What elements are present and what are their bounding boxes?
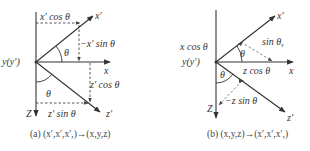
theta-arc-bottom — [36, 74, 52, 82]
caption-a: (a) (x′,x′,x′,)→(x,y,z) — [30, 129, 111, 140]
x-label: x — [103, 65, 109, 76]
origin-label: y(y′) — [181, 56, 200, 68]
z-prime-label: z′ — [286, 112, 294, 123]
x-label: x — [288, 65, 294, 76]
z-prime-sin-label: z′ sin θ — [47, 108, 76, 119]
neg-x-prime-sin-label: −x′ sin θ — [80, 38, 115, 49]
theta-bottom-label: θ — [46, 88, 51, 99]
x-cos-arrowhead — [238, 41, 243, 46]
x-prime-label: x′ — [276, 10, 284, 21]
theta-top-label: θ — [240, 48, 245, 59]
origin-dot — [215, 61, 218, 64]
origin-dot — [35, 61, 38, 64]
coordinate-rotation-diagram: x′ cos θ x′ −x′ sin θ θ y(y′) x z′ cos θ… — [0, 0, 310, 151]
z-label: Z — [207, 103, 213, 114]
panel-a: x′ cos θ x′ −x′ sin θ θ y(y′) x z′ cos θ… — [1, 10, 119, 140]
theta-bottom-label: θ — [220, 69, 225, 80]
x-cos-label: x cos θ — [179, 41, 208, 52]
origin-label: y(y′) — [1, 56, 20, 68]
theta-top-label: θ — [64, 47, 69, 58]
x-prime-cos-label: x′ cos θ — [39, 11, 70, 22]
z-cos-label: z cos θ — [242, 65, 270, 76]
panel-b: x′ x cos θ sin θv θ y(y′) z cos θ x θ −z… — [179, 10, 294, 140]
neg-z-sin-label: −z sin θ — [225, 95, 257, 106]
z-prime-label: z′ — [105, 108, 113, 119]
caption-b: (b) (x,y,z)→(x′,x′,x′,) — [207, 129, 288, 140]
theta-arc-top — [56, 46, 62, 62]
x-prime-label: x′ — [94, 10, 102, 21]
sin-theta-label: sin θv — [262, 36, 284, 48]
z-label: Z — [26, 108, 32, 119]
z-prime-cos-label: z′ cos θ — [89, 79, 119, 90]
